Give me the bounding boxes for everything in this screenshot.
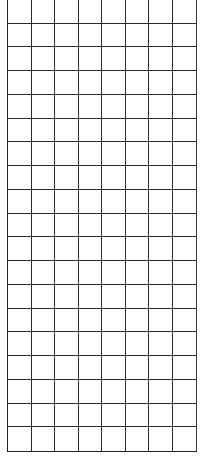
- grid-cell: [8, 427, 32, 451]
- grid-cell: [102, 0, 126, 24]
- grid-cell: [173, 0, 197, 24]
- grid-cell: [32, 261, 56, 285]
- grid-cell: [32, 24, 56, 48]
- grid-cell: [149, 261, 173, 285]
- grid-cell: [126, 285, 150, 309]
- grid-cell: [126, 0, 150, 24]
- grid-cell: [173, 95, 197, 119]
- grid-cell: [126, 309, 150, 333]
- grid-cell: [126, 71, 150, 95]
- grid-cell: [173, 285, 197, 309]
- grid-cell: [102, 380, 126, 404]
- grid-cell: [55, 261, 79, 285]
- grid-cell: [149, 0, 173, 24]
- grid-cell: [79, 356, 103, 380]
- grid-cell: [79, 309, 103, 333]
- grid-cell: [173, 380, 197, 404]
- grid-cell: [149, 214, 173, 238]
- grid-cell: [102, 261, 126, 285]
- grid-cell: [8, 285, 32, 309]
- grid-cell: [55, 95, 79, 119]
- grid-cell: [55, 427, 79, 451]
- grid-cell: [149, 427, 173, 451]
- grid-cell: [173, 404, 197, 428]
- grid-cell: [126, 356, 150, 380]
- grid-cell: [55, 309, 79, 333]
- grid-cell: [55, 404, 79, 428]
- grid-cell: [126, 214, 150, 238]
- grid-cell: [173, 427, 197, 451]
- grid-cell: [32, 71, 56, 95]
- grid-cell: [102, 24, 126, 48]
- grid-cell: [126, 380, 150, 404]
- grid-cell: [126, 24, 150, 48]
- grid-cell: [126, 119, 150, 143]
- grid-cell: [149, 24, 173, 48]
- grid-cell: [79, 214, 103, 238]
- grid-cell: [79, 237, 103, 261]
- grid-cell: [32, 119, 56, 143]
- grid-cell: [149, 309, 173, 333]
- grid-cell: [55, 119, 79, 143]
- grid-cell: [102, 142, 126, 166]
- grid-cell: [126, 142, 150, 166]
- grid-cell: [173, 261, 197, 285]
- grid-cell: [102, 332, 126, 356]
- grid-cell: [173, 166, 197, 190]
- grid-cell: [126, 166, 150, 190]
- grid-cell: [173, 356, 197, 380]
- grid-cell: [32, 309, 56, 333]
- grid-cell: [79, 285, 103, 309]
- grid-cell: [126, 47, 150, 71]
- grid-cell: [55, 380, 79, 404]
- grid-cell: [126, 332, 150, 356]
- grid-cell: [102, 95, 126, 119]
- grid-cell: [8, 356, 32, 380]
- grid-cell: [55, 0, 79, 24]
- grid-cell: [79, 0, 103, 24]
- grid-cell: [173, 119, 197, 143]
- grid-cell: [8, 71, 32, 95]
- grid-cell: [32, 142, 56, 166]
- grid-cell: [8, 214, 32, 238]
- grid-cell: [102, 356, 126, 380]
- grid-cell: [8, 166, 32, 190]
- grid-cell: [149, 166, 173, 190]
- grid-cell: [32, 332, 56, 356]
- grid-cell: [55, 24, 79, 48]
- grid-cell: [102, 214, 126, 238]
- grid-cell: [79, 119, 103, 143]
- grid-cell: [55, 285, 79, 309]
- grid-cell: [55, 190, 79, 214]
- grid-cell: [8, 0, 32, 24]
- grid-cell: [149, 119, 173, 143]
- grid-cell: [173, 332, 197, 356]
- grid-cell: [149, 356, 173, 380]
- grid-cell: [126, 261, 150, 285]
- grid-cell: [149, 142, 173, 166]
- grid-cell: [8, 190, 32, 214]
- grid-cell: [8, 24, 32, 48]
- grid-cell: [55, 332, 79, 356]
- grid-cell: [102, 190, 126, 214]
- grid-cell: [8, 47, 32, 71]
- grid-cell: [102, 427, 126, 451]
- grid-cell: [8, 380, 32, 404]
- grid-cell: [102, 285, 126, 309]
- grid-cell: [79, 261, 103, 285]
- grid-cell: [149, 380, 173, 404]
- grid-cell: [149, 71, 173, 95]
- empty-grid: [7, 0, 197, 452]
- grid-cell: [8, 142, 32, 166]
- grid-cell: [173, 309, 197, 333]
- grid-cell: [173, 190, 197, 214]
- grid-cell: [102, 119, 126, 143]
- grid-cell: [32, 166, 56, 190]
- grid-cell: [102, 237, 126, 261]
- grid-cell: [79, 380, 103, 404]
- grid-cell: [8, 332, 32, 356]
- grid-cell: [8, 404, 32, 428]
- grid-cell: [173, 237, 197, 261]
- grid-cell: [126, 95, 150, 119]
- grid-cell: [79, 24, 103, 48]
